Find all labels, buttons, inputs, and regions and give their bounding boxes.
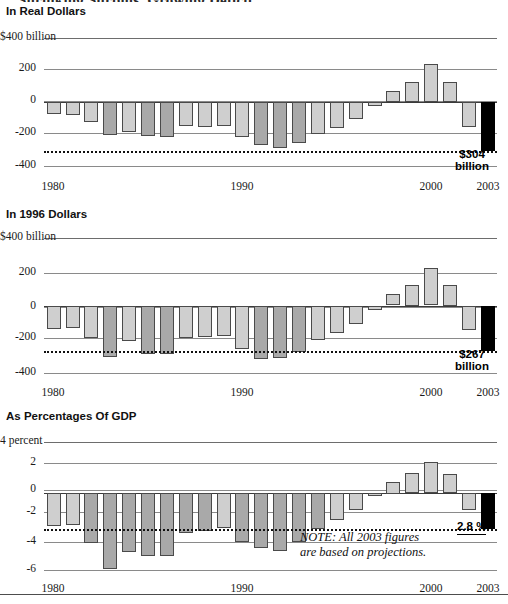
bar <box>179 493 193 533</box>
bottom-rule <box>0 594 508 595</box>
chart-panel-3: As Percentages Of GDP4 percent20-2-4-619… <box>0 0 508 604</box>
bar <box>254 493 268 548</box>
bar <box>424 462 438 493</box>
bar <box>386 482 400 494</box>
bar <box>273 493 287 551</box>
y-axis-tick-label: -4 <box>0 535 36 546</box>
bar <box>141 493 155 556</box>
y-axis-tick-label: 0 <box>0 483 36 494</box>
chart-note-line-1: NOTE: All 2003 figures <box>300 530 426 545</box>
bar <box>66 493 80 525</box>
x-axis-tick-label: 1980 <box>31 582 75 594</box>
bar <box>122 493 136 552</box>
chart-note-line-2: are based on projections. <box>300 545 426 560</box>
y-axis-tick-label: 4 percent <box>0 435 36 446</box>
bar <box>405 473 419 493</box>
gridline--6 <box>44 570 497 571</box>
bar <box>47 493 61 526</box>
y-axis-tick-label: -2 <box>0 505 36 516</box>
bar <box>443 474 457 493</box>
reference-dotted-line <box>44 529 497 531</box>
figure-page: Shrinking Surplus, Growing Deficit In Re… <box>0 0 508 604</box>
bar <box>84 493 98 543</box>
bar <box>160 493 174 556</box>
chart-note: NOTE: All 2003 figuresare based on proje… <box>300 530 426 560</box>
y-axis-tick-label: -6 <box>0 563 36 574</box>
bar <box>217 493 231 528</box>
bar <box>311 493 325 529</box>
bar <box>330 493 344 520</box>
bar <box>349 493 363 510</box>
gridline-4 <box>44 442 497 443</box>
bar <box>235 493 249 542</box>
bar <box>198 493 212 531</box>
y-axis-tick-label: 2 <box>0 456 36 467</box>
panel-title: As Percentages Of GDP <box>6 410 136 422</box>
bar <box>103 493 117 569</box>
x-axis-tick-label: 2000 <box>409 582 453 594</box>
bar <box>462 493 476 510</box>
callout-2003-percent: 2.8 % <box>457 520 486 535</box>
x-axis-tick-label: 1990 <box>220 582 264 594</box>
x-axis-tick-label: 2003 <box>466 582 508 594</box>
bar <box>368 493 382 496</box>
